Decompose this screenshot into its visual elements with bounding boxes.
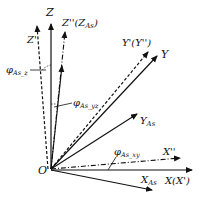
phi-yz-label: φAs_yz bbox=[73, 97, 99, 110]
z-double-prime-label: Z''(ZAs) bbox=[61, 17, 98, 30]
x-as-label: XAs bbox=[140, 174, 157, 187]
phi-xy-label: φAs_xy bbox=[114, 146, 140, 159]
phi-yz-leader bbox=[54, 103, 72, 107]
diagram-svg: Z Z' Z''(ZAs) φAs_z φAs_yz φAs_xy Y'(Y''… bbox=[0, 0, 199, 198]
z-prime-label: Z' bbox=[26, 34, 37, 45]
origin-label: O bbox=[38, 164, 47, 177]
y-prime-label: Y'(Y'') bbox=[122, 37, 151, 48]
y-label: Y bbox=[161, 48, 170, 61]
coordinate-rotation-diagram: Z Z' Z''(ZAs) φAs_z φAs_yz φAs_xy Y'(Y''… bbox=[0, 0, 199, 198]
y-axis bbox=[51, 56, 157, 169]
x-as-axis bbox=[51, 170, 152, 190]
x-double-prime-axis bbox=[51, 158, 180, 169]
z-label: Z bbox=[45, 6, 54, 19]
phi-z-label: φAs_z bbox=[6, 64, 28, 77]
x-label: X(X') bbox=[164, 175, 190, 186]
z-as-axis bbox=[51, 66, 62, 169]
y-as-axis bbox=[51, 114, 137, 169]
z-prime-axis bbox=[37, 26, 48, 169]
x-double-prime-label: X'' bbox=[162, 146, 176, 157]
y-as-label: YAs bbox=[140, 115, 156, 128]
phi-z-arc bbox=[42, 65, 51, 70]
